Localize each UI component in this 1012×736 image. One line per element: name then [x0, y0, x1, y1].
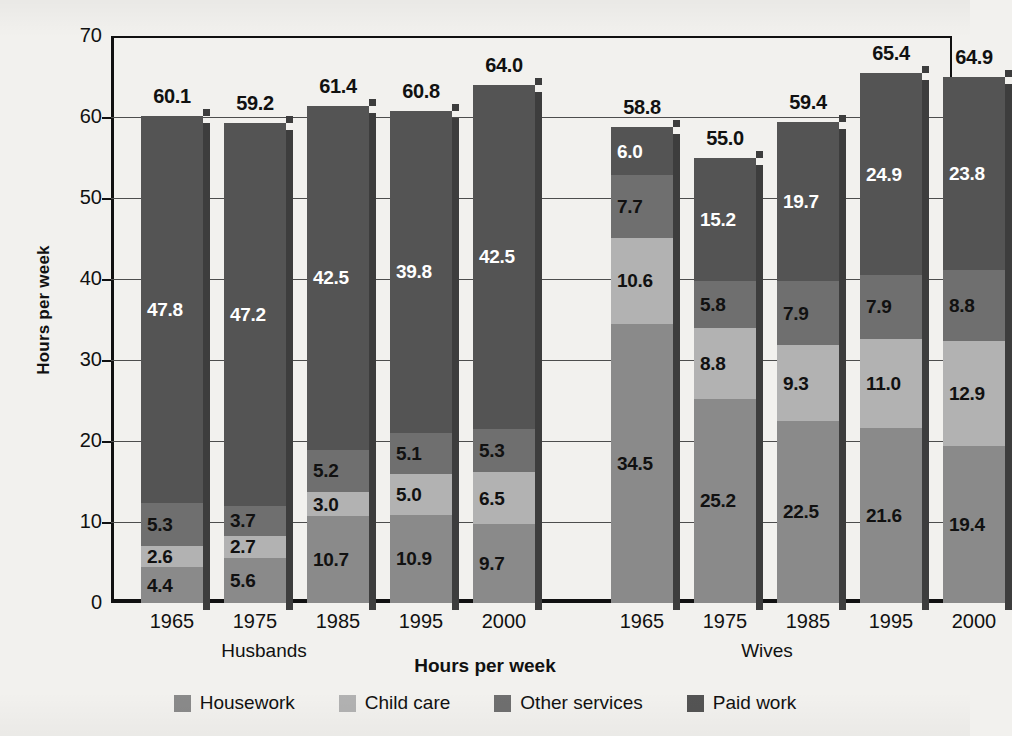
segment-wives-1995-other-services[interactable]: 7.9 — [860, 275, 922, 339]
segment-value-label: 7.7 — [611, 197, 643, 216]
segment-value-label: 10.6 — [611, 271, 653, 290]
x-tick-label-husbands-1995: 1995 — [399, 610, 444, 633]
bar-husbands-1965[interactable]: 47.85.32.64.460.1 — [141, 116, 203, 603]
segment-wives-1965-paid-work[interactable]: 6.0 — [611, 127, 673, 176]
segment-husbands-1965-housework[interactable]: 4.4 — [141, 567, 203, 603]
bar-husbands-1975[interactable]: 47.23.72.75.659.2 — [224, 123, 286, 603]
segment-husbands-2000-paid-work[interactable]: 42.5 — [473, 85, 535, 429]
bar-shadow-top — [673, 120, 680, 127]
segment-value-label: 23.8 — [943, 164, 985, 183]
segment-husbands-1985-child-care[interactable]: 3.0 — [307, 492, 369, 516]
segment-wives-2000-other-services[interactable]: 8.8 — [943, 270, 1005, 341]
bar-wives-1985[interactable]: 19.77.99.322.559.4 — [777, 122, 839, 603]
x-tick-label-wives-1975: 1975 — [703, 610, 748, 633]
segment-value-label: 22.5 — [777, 502, 819, 521]
segment-value-label: 5.2 — [307, 461, 339, 480]
segment-husbands-2000-child-care[interactable]: 6.5 — [473, 472, 535, 525]
segment-husbands-1975-paid-work[interactable]: 47.2 — [224, 123, 286, 505]
bar-total-label-wives-1995: 65.4 — [872, 42, 910, 65]
segment-wives-2000-child-care[interactable]: 12.9 — [943, 341, 1005, 445]
x-tick-label-husbands-1975: 1975 — [233, 610, 278, 633]
bar-wives-1965[interactable]: 6.07.710.634.558.8 — [611, 127, 673, 603]
segment-husbands-1985-paid-work[interactable]: 42.5 — [307, 106, 369, 450]
segment-value-label: 9.7 — [473, 554, 505, 573]
segment-value-label: 9.3 — [777, 374, 809, 393]
segment-husbands-1965-paid-work[interactable]: 47.8 — [141, 116, 203, 503]
segment-wives-1985-other-services[interactable]: 7.9 — [777, 281, 839, 345]
bar-husbands-2000[interactable]: 42.55.36.59.764.0 — [473, 85, 535, 603]
legend-item-housework[interactable]: Housework — [174, 692, 295, 714]
segment-value-label: 42.5 — [307, 268, 349, 287]
segment-husbands-1975-other-services[interactable]: 3.7 — [224, 506, 286, 536]
segment-husbands-2000-housework[interactable]: 9.7 — [473, 524, 535, 603]
y-tick-label-20: 20 — [56, 429, 102, 452]
segment-husbands-2000-other-services[interactable]: 5.3 — [473, 429, 535, 472]
segment-husbands-1975-child-care[interactable]: 2.7 — [224, 536, 286, 558]
segment-husbands-1995-other-services[interactable]: 5.1 — [390, 433, 452, 474]
segment-husbands-1985-other-services[interactable]: 5.2 — [307, 450, 369, 492]
segment-value-label: 5.0 — [390, 485, 422, 504]
y-tick-mark-60 — [102, 117, 111, 119]
x-tick-label-wives-2000: 2000 — [952, 610, 997, 633]
segment-wives-1995-child-care[interactable]: 11.0 — [860, 339, 922, 428]
bar-shadow — [839, 129, 846, 610]
segment-wives-1985-paid-work[interactable]: 19.7 — [777, 122, 839, 282]
x-tick-label-wives-1965: 1965 — [620, 610, 665, 633]
segment-wives-1965-other-services[interactable]: 7.7 — [611, 175, 673, 237]
segment-husbands-1985-housework[interactable]: 10.7 — [307, 516, 369, 603]
y-tick-mark-10 — [102, 522, 111, 524]
y-tick-mark-20 — [102, 441, 111, 443]
bar-total-label-husbands-1995: 60.8 — [402, 80, 440, 103]
bar-wives-2000[interactable]: 23.88.812.919.464.9 — [943, 77, 1005, 603]
segment-wives-1975-other-services[interactable]: 5.8 — [694, 281, 756, 328]
bar-shadow-top — [286, 116, 293, 123]
bar-husbands-1985[interactable]: 42.55.23.010.761.4 — [307, 106, 369, 603]
segment-husbands-1965-other-services[interactable]: 5.3 — [141, 503, 203, 546]
group-label-husbands: Husbands — [221, 640, 307, 662]
plot-area: 47.85.32.64.460.147.23.72.75.659.242.55.… — [111, 36, 952, 603]
segment-wives-2000-paid-work[interactable]: 23.8 — [943, 77, 1005, 270]
segment-wives-1975-paid-work[interactable]: 15.2 — [694, 158, 756, 281]
segment-value-label: 10.9 — [390, 549, 432, 568]
segment-husbands-1995-child-care[interactable]: 5.0 — [390, 474, 452, 515]
legend-swatch-icon — [174, 695, 191, 712]
segment-wives-1995-housework[interactable]: 21.6 — [860, 428, 922, 603]
segment-value-label: 8.8 — [943, 296, 975, 315]
bar-wives-1975[interactable]: 15.25.88.825.255.0 — [694, 158, 756, 604]
bar-total-label-wives-1985: 59.4 — [789, 91, 827, 114]
bar-wives-1995[interactable]: 24.97.911.021.665.4 — [860, 73, 922, 603]
legend-item-child-care[interactable]: Child care — [339, 692, 451, 714]
segment-value-label: 2.6 — [141, 547, 173, 566]
y-axis-tick-labels: 010203040506070 — [56, 0, 102, 736]
segment-husbands-1995-housework[interactable]: 10.9 — [390, 515, 452, 603]
segment-wives-1965-housework[interactable]: 34.5 — [611, 324, 673, 603]
segment-value-label: 21.6 — [860, 506, 902, 525]
segment-wives-1985-child-care[interactable]: 9.3 — [777, 345, 839, 420]
bar-husbands-1995[interactable]: 39.85.15.010.960.8 — [390, 111, 452, 603]
segment-wives-1985-housework[interactable]: 22.5 — [777, 421, 839, 603]
y-tick-mark-50 — [102, 198, 111, 200]
segment-wives-2000-housework[interactable]: 19.4 — [943, 446, 1005, 603]
y-tick-label-70: 70 — [56, 24, 102, 47]
y-tick-label-50: 50 — [56, 186, 102, 209]
segment-wives-1995-paid-work[interactable]: 24.9 — [860, 73, 922, 275]
y-tick-label-10: 10 — [56, 510, 102, 533]
segment-wives-1975-child-care[interactable]: 8.8 — [694, 328, 756, 399]
segment-value-label: 25.2 — [694, 491, 736, 510]
segment-value-label: 5.3 — [141, 515, 173, 534]
legend-item-paid-work[interactable]: Paid work — [687, 692, 796, 714]
segment-value-label: 6.5 — [473, 489, 505, 508]
legend-swatch-icon — [494, 695, 511, 712]
segment-value-label: 5.8 — [694, 295, 726, 314]
segment-husbands-1995-paid-work[interactable]: 39.8 — [390, 111, 452, 433]
legend-item-other-services[interactable]: Other services — [494, 692, 642, 714]
segment-value-label: 42.5 — [473, 247, 515, 266]
segment-husbands-1975-housework[interactable]: 5.6 — [224, 558, 286, 603]
segment-value-label: 3.0 — [307, 495, 339, 514]
legend-label: Other services — [520, 692, 642, 714]
legend-label: Housework — [200, 692, 295, 714]
segment-wives-1975-housework[interactable]: 25.2 — [694, 399, 756, 603]
segment-wives-1965-child-care[interactable]: 10.6 — [611, 238, 673, 324]
segment-husbands-1965-child-care[interactable]: 2.6 — [141, 546, 203, 567]
x-tick-label-husbands-1965: 1965 — [150, 610, 195, 633]
